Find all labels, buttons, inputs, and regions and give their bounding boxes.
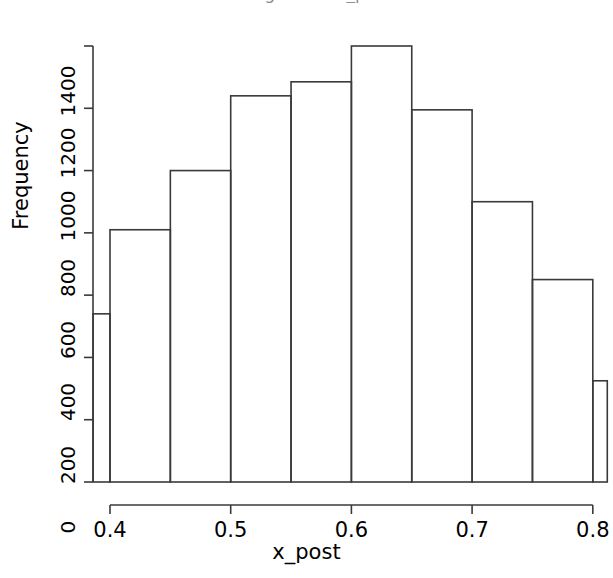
- y-axis: [84, 46, 93, 482]
- x-axis: [110, 505, 593, 514]
- y-axis-title: Frequency: [11, 111, 32, 241]
- histogram-bar: [532, 280, 592, 482]
- x-tick-label: 0.5: [191, 520, 271, 541]
- y-tick-label: 1400: [58, 46, 78, 136]
- histogram-figure: Histogram of x_post 02004006008001000120…: [0, 0, 613, 578]
- histogram-bar: [110, 230, 170, 482]
- plot-canvas: [0, 0, 613, 578]
- histogram-bar: [231, 96, 291, 482]
- histogram-bar: [472, 202, 532, 482]
- histogram-bars: [93, 46, 607, 482]
- histogram-bar: [93, 314, 110, 482]
- histogram-bar: [351, 46, 411, 482]
- histogram-bar: [593, 381, 607, 482]
- x-tick-label: 0.6: [311, 520, 391, 541]
- x-tick-label: 0.8: [553, 520, 613, 541]
- x-axis-title: x_post: [0, 542, 613, 563]
- x-tick-label: 0.4: [70, 520, 150, 541]
- histogram-bar: [170, 171, 230, 482]
- histogram-bar: [291, 82, 351, 482]
- histogram-bar: [412, 110, 472, 482]
- x-tick-label: 0.7: [432, 520, 512, 541]
